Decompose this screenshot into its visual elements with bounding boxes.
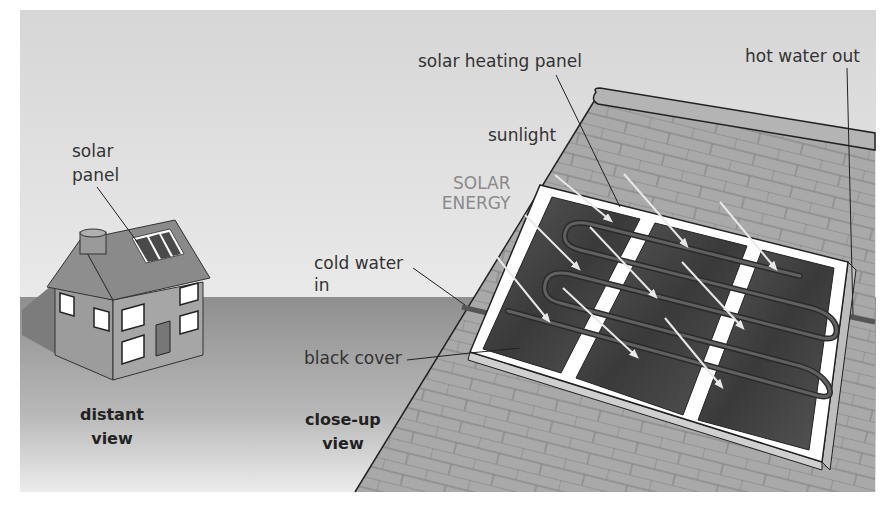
label-hot-water-out: hot water out <box>745 46 860 66</box>
label-solar-panel: solar panel <box>72 141 119 185</box>
label-cold-water-in: cold water in <box>314 253 403 295</box>
label-black-cover: black cover <box>304 348 402 368</box>
label-solar-energy: SOLAR ENERGY <box>441 173 510 213</box>
label-solar-heating-panel: solar heating panel <box>418 51 582 71</box>
label-closeup-view: close-up view <box>305 410 381 454</box>
label-sunlight: sunlight <box>488 125 556 145</box>
label-distant-view: distant view <box>80 405 144 449</box>
